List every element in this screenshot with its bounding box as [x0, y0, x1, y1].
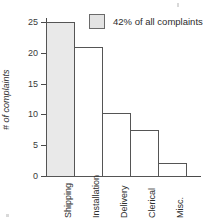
legend-swatch-icon	[89, 14, 105, 29]
chart-figure: 42% of all complaints # of complaints 05…	[0, 0, 214, 221]
y-tick-label: 5	[8, 141, 38, 150]
chart-legend: 42% of all complaints	[89, 14, 203, 29]
plot-area: 42% of all complaints # of complaints 05…	[0, 0, 214, 221]
x-tick-label: Installation	[92, 175, 101, 218]
legend-label: 42% of all complaints	[113, 17, 203, 27]
y-tick-label: 0	[8, 172, 38, 181]
bar-shipping	[46, 22, 75, 177]
bar-clerical	[130, 130, 159, 177]
bar-delivery	[102, 113, 131, 177]
x-tick-label: Misc.	[176, 197, 185, 218]
y-axis-label: # of complaints	[2, 69, 11, 130]
y-tick-label: 10	[8, 110, 38, 119]
scan-speck	[6, 214, 9, 217]
scan-speck	[177, 3, 179, 7]
y-tick-label: 15	[8, 80, 38, 89]
x-tick-label: Delivery	[120, 185, 129, 218]
bar-installation	[74, 47, 103, 177]
bar-misc	[158, 163, 187, 177]
x-tick-label: Shipping	[64, 183, 73, 218]
y-tick-label: 25	[8, 18, 38, 27]
y-tick-label: 20	[8, 49, 38, 58]
x-tick-label: Clerical	[148, 188, 157, 218]
